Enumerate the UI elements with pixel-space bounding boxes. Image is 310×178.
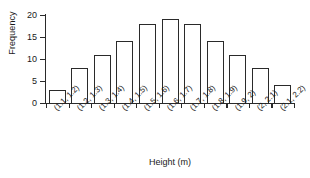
histogram-figure: Frequency 05101520 (1.1, 1.2)(1.2, 1.3)(… — [0, 0, 310, 178]
y-tick-label: 15 — [27, 32, 37, 42]
x-axis-title: Height (m) — [45, 157, 295, 167]
x-axis-tick-labels: (1.1, 1.2)(1.2, 1.3)(1.3, 1.4)(1.4, 1.5)… — [45, 106, 295, 152]
y-tick-0: 0 — [40, 103, 45, 104]
y-tick-15: 15 — [40, 37, 45, 38]
y-tick-5: 5 — [40, 81, 45, 82]
y-tick-label: 5 — [32, 76, 37, 86]
y-tick-10: 10 — [40, 59, 45, 60]
y-tick-label: 20 — [27, 10, 37, 20]
y-tick-20: 20 — [40, 15, 45, 16]
y-tick-label: 10 — [27, 54, 37, 64]
y-tick-label: 0 — [32, 98, 37, 108]
y-axis-title: Frequency — [7, 0, 17, 71]
bar-slot — [46, 15, 69, 103]
